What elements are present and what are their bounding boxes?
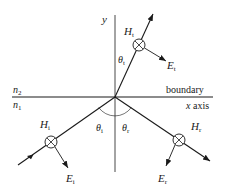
e-field-transmitted-arrow (145, 48, 167, 61)
x-axis-label: x axis (185, 100, 209, 111)
theta-reflected-label: θr (122, 122, 130, 135)
h-reflected-label: Hr (190, 120, 202, 134)
boundary-diagram: y Ht Et θt boundary x axis n2 n1 Hi θi θ… (0, 0, 227, 196)
y-axis-label: y (101, 13, 107, 25)
medium-n1-label: n1 (13, 99, 22, 112)
h-field-into-page-icon (45, 136, 57, 148)
h-field-into-page-icon (133, 39, 145, 51)
e-reflected-label: Er (157, 172, 168, 186)
e-incident-label: Ei (65, 172, 75, 186)
boundary-label: boundary (166, 84, 204, 95)
e-field-incident-arrow (55, 147, 68, 168)
theta-transmitted-label: θt (118, 54, 125, 67)
medium-n2-label: n2 (13, 84, 22, 97)
h-transmitted-label: Ht (123, 25, 134, 39)
e-field-reflected-arrow (166, 145, 175, 166)
e-transmitted-label: Et (166, 59, 176, 73)
h-incident-label: Hi (39, 118, 50, 132)
theta-incident-label: θi (96, 122, 103, 135)
h-field-into-page-icon (173, 134, 185, 146)
